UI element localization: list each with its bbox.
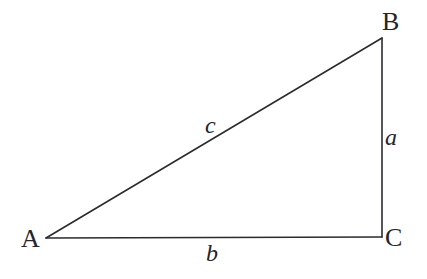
vertex-label-c: C	[385, 225, 402, 251]
triangle-figure: A B C a b c	[0, 0, 427, 279]
vertex-label-a: A	[21, 226, 40, 252]
side-label-c: c	[205, 113, 216, 137]
triangle-side-b-horizontal-leg	[46, 237, 382, 238]
side-label-a: a	[385, 125, 397, 149]
triangle-drawing	[0, 0, 427, 279]
side-label-b: b	[206, 241, 218, 265]
vertex-label-b: B	[382, 9, 399, 35]
